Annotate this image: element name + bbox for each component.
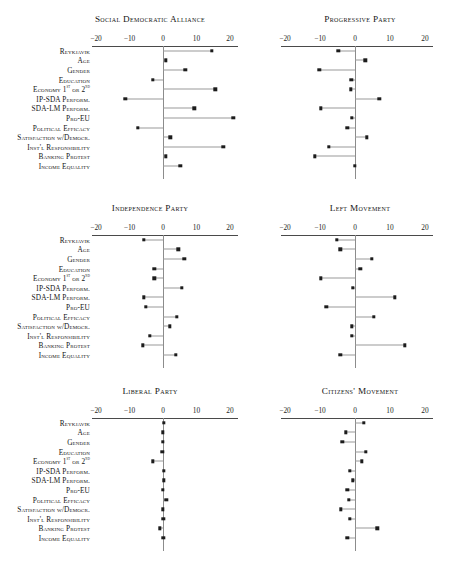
coefficient-segment <box>340 354 355 355</box>
coefficient-point <box>325 305 328 308</box>
coefficient-segment <box>355 297 395 298</box>
x-tick-label: 20 <box>421 34 428 43</box>
x-tick-label: 10 <box>193 223 200 232</box>
coefficient-segment <box>355 316 374 317</box>
coefficient-point <box>162 469 165 472</box>
coefficient-row: SDA-LM Perform. <box>285 104 425 114</box>
coefficient-point <box>370 257 373 260</box>
panel-row: Liberal Party−20−1001020ReykjavikAgeGend… <box>0 386 466 557</box>
coefficient-row: Income Equality <box>96 350 230 360</box>
coefficient-segment <box>163 108 194 109</box>
coefficient-segment <box>355 528 377 529</box>
coefficient-segment <box>321 278 355 279</box>
row-label: Education <box>59 75 90 84</box>
coefficient-row: Income Equality <box>96 533 230 543</box>
coefficient-point <box>393 296 396 299</box>
coefficient-point <box>377 97 380 100</box>
coefficient-rows: ReykjavikAgeGenderEducationEconomy 1st o… <box>285 235 425 360</box>
coefficient-point <box>339 248 342 251</box>
coefficient-point <box>346 126 349 129</box>
coefficient-segment <box>326 306 355 307</box>
panel-title: Citizens' Movement <box>260 386 460 396</box>
coefficient-segment <box>146 306 163 307</box>
coefficient-row: Age <box>285 56 425 66</box>
coefficient-segment <box>150 335 163 336</box>
coefficient-row: Economy 1st or 2nd <box>285 84 425 94</box>
coefficient-row: Inst'l Responsibility <box>285 331 425 341</box>
coefficient-point <box>319 276 322 279</box>
row-label: Pro-EU <box>66 302 90 311</box>
panel-title: Independence Party <box>60 203 240 213</box>
coefficient-row: Satisfaction w/Democr. <box>285 504 425 514</box>
coefficient-row: Satisfaction w/Democr. <box>285 321 425 331</box>
coefficient-point <box>144 305 147 308</box>
row-label: SDA-LM Perform. <box>32 293 91 302</box>
row-label: Inst'l Responsibility <box>27 331 90 340</box>
coefficient-point <box>318 68 321 71</box>
coefficient-row: Gender <box>96 437 230 447</box>
plot-area: −20−1001020ReykjavikAgeGenderEducationEc… <box>285 223 425 370</box>
coefficient-row: Gender <box>285 254 425 264</box>
coefficient-point <box>174 353 177 356</box>
coefficient-row: Reykjavik <box>285 418 425 428</box>
coefficient-point <box>151 78 154 81</box>
row-label: IP-SDA Perform. <box>36 94 90 103</box>
coefficient-rows: ReykjavikAgeGenderEducationEconomy 1st o… <box>285 418 425 543</box>
row-label: Political Efficacy <box>33 123 90 132</box>
coefficient-point <box>319 107 322 110</box>
coefficient-row: Reykjavik <box>96 418 230 428</box>
coefficient-row: Gender <box>285 437 425 447</box>
coefficient-segment <box>355 98 379 99</box>
coefficient-point <box>210 49 213 52</box>
coefficient-row: Pro-EU <box>285 485 425 495</box>
coefficient-point <box>336 49 339 52</box>
coefficient-point <box>177 248 180 251</box>
coefficient-row: Pro-EU <box>96 302 230 312</box>
x-tick-label: 0 <box>161 406 165 415</box>
coefficient-point <box>372 315 375 318</box>
coefficient-segment <box>163 117 233 118</box>
row-label: Pro-EU <box>66 485 90 494</box>
coefficient-point <box>403 344 406 347</box>
row-label: Reykjavik <box>60 418 90 427</box>
x-tick-label: 20 <box>226 223 233 232</box>
coefficient-point <box>161 431 164 434</box>
x-tick-label: −10 <box>314 406 326 415</box>
coefficient-row: Economy 1st or 2nd <box>96 273 230 283</box>
coefficient-row: Inst'l Responsibility <box>96 331 230 341</box>
coefficient-row: Banking Protest <box>96 524 230 534</box>
row-label: Income Equality <box>39 161 90 170</box>
coefficient-segment <box>163 258 184 259</box>
x-tick-label: 0 <box>353 34 357 43</box>
coefficient-point <box>341 440 344 443</box>
x-tick-label: 10 <box>193 406 200 415</box>
x-tick-label: −20 <box>279 406 291 415</box>
coefficient-row: Income Equality <box>285 350 425 360</box>
coefficient-row: Economy 1st or 2nd <box>285 273 425 283</box>
coefficient-row: IP-SDA Perform. <box>285 466 425 476</box>
coefficient-row: SDA-LM Perform. <box>96 104 230 114</box>
coefficient-segment <box>143 345 163 346</box>
row-label: SDA-LM Perform. <box>32 104 91 113</box>
coefficient-point <box>183 257 186 260</box>
x-tick-label: 10 <box>386 406 393 415</box>
coefficient-row: Income Equality <box>96 161 230 171</box>
coefficient-row: Banking Protest <box>285 152 425 162</box>
coefficient-row: Political Efficacy <box>96 312 230 322</box>
x-tick-label: 10 <box>386 223 393 232</box>
coefficient-row: Political Efficacy <box>96 495 230 505</box>
coefficient-row: Education <box>285 264 425 274</box>
coefficient-plot-figure: Social Democratic Alliance−20−1001020Rey… <box>0 0 466 568</box>
row-label: Satisfaction w/Democr. <box>17 505 90 514</box>
coefficient-row: Satisfaction w/Democr. <box>96 132 230 142</box>
coefficient-point <box>350 334 353 337</box>
coefficient-row: IP-SDA Perform. <box>96 466 230 476</box>
coefficient-row: Education <box>285 75 425 85</box>
coefficient-point <box>161 440 164 443</box>
coefficient-row: Age <box>96 428 230 438</box>
coefficient-rows: ReykjavikAgeGenderEducationEconomy 1st o… <box>96 418 230 543</box>
coefficient-row: Gender <box>96 254 230 264</box>
coefficient-point <box>141 344 144 347</box>
panel-row: Social Democratic Alliance−20−1001020Rey… <box>0 14 466 185</box>
coefficient-point <box>153 267 156 270</box>
